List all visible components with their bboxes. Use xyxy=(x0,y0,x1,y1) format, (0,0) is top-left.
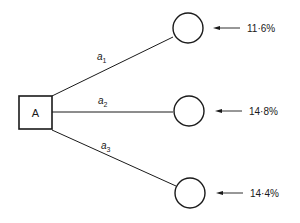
chance-node-1 xyxy=(173,13,203,43)
outcome-value-2: 14·8% xyxy=(249,106,278,117)
branch-label-2: a2 xyxy=(98,95,108,108)
outcome-value-1: 11·6% xyxy=(247,23,275,34)
branch-line-3 xyxy=(52,130,176,186)
branch-label-1: a1 xyxy=(97,51,107,64)
outcome-arrow-2 xyxy=(215,109,242,113)
branch-label-3: a3 xyxy=(101,140,111,153)
arrow-left-icon xyxy=(216,191,223,195)
arrow-left-icon xyxy=(215,109,222,113)
outcome-value-3: 14·4% xyxy=(250,188,279,199)
decision-node-label: A xyxy=(32,107,40,119)
branch-line-1 xyxy=(52,37,173,96)
chance-node-2 xyxy=(174,96,204,126)
decision-tree-diagram: A a1 a2 a3 11·6% 14·8% 14·4% xyxy=(0,0,300,223)
chance-node-3 xyxy=(175,178,205,208)
outcome-arrow-3 xyxy=(216,191,243,195)
arrow-left-icon xyxy=(213,26,220,30)
outcome-arrow-1 xyxy=(213,26,240,30)
